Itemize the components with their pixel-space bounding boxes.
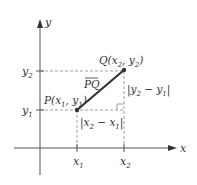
x-axis-label: x <box>180 142 187 155</box>
point-p-label: P(x1, y1) <box>43 94 87 109</box>
y-axis-arrow-icon <box>37 19 43 28</box>
guide-lines <box>40 71 124 148</box>
horizontal-distance-label: |x2 − x1| <box>80 116 123 131</box>
y1-tick-label: y1 <box>21 104 33 119</box>
segment-pq-label: PQ <box>83 78 100 91</box>
vertical-distance-label: |y2 − y1| <box>127 83 170 98</box>
tick-marks <box>36 71 124 152</box>
distance-diagram: y x y2 y1 x1 x2 <box>0 0 197 185</box>
x1-tick-label: x1 <box>73 155 84 170</box>
x-axis-arrow-icon <box>168 145 177 151</box>
y-axis-label: y <box>44 16 52 29</box>
point-q-label: Q(x2, y2) <box>99 54 143 69</box>
y2-tick-label: y2 <box>21 65 33 80</box>
right-angle-marker <box>117 104 124 110</box>
x2-tick-label: x2 <box>120 155 131 170</box>
point-q <box>122 68 126 72</box>
